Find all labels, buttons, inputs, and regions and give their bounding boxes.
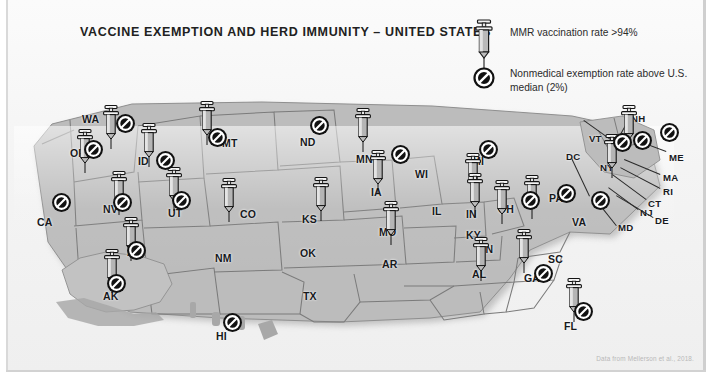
syringe-icon-in [464,172,486,222]
no-entry-icon-vt [612,132,633,157]
no-entry-icon-id [155,150,176,175]
no-entry-icon-mi [478,139,499,164]
no-entry-icon-hi [222,312,243,337]
no-entry-icon-ca [51,192,72,217]
state-label-co: CO [240,208,256,220]
state-label-wi: WI [415,168,428,180]
no-entry-icon-nd [309,115,330,140]
state-label-de: DE [655,215,669,226]
no-entry-icon-pa [556,183,577,208]
no-entry-icon-or [83,139,104,164]
legend-item-vaccination: MMR vaccination rate >94% [470,18,638,70]
state-label-tx: TX [303,290,317,302]
no-entry-icon-az [126,240,147,265]
state-label-ma: MA [663,172,678,183]
no-entry-icon-ga [533,263,554,288]
state-label-ar: AR [382,258,398,270]
infographic-root: VACCINE EXEMPTION AND HERD IMMUNITY – UN… [0,0,706,378]
no-entry-icon-fl [573,301,594,326]
no-entry-icon-me [659,122,680,147]
syringe-icon-ga [513,228,535,278]
state-label-vt: VT [589,133,602,144]
no-entry-icon-mt [207,127,228,152]
syringe-icon-co [218,177,240,227]
no-entry-icon-nh [632,130,653,155]
no-entry-icon-nv [112,192,133,217]
state-label-ok: OK [300,247,316,259]
no-entry-icon-ak [106,273,127,298]
state-label-wa: WA [82,113,99,125]
syringe-icon-oh [491,179,513,229]
syringe-icon-mo [380,200,402,250]
state-label-ca: CA [37,216,53,228]
state-label-me: ME [669,152,684,163]
state-label-il: IL [432,205,442,217]
no-entry-icon-ut [171,190,192,215]
syringe-icon [470,18,498,70]
panel-bottom-edge [6,370,706,372]
figure-title: VACCINE EXEMPTION AND HERD IMMUNITY – UN… [80,25,491,39]
state-label-md: MD [618,222,633,233]
no-entry-icon-wi [390,144,411,169]
state-label-nm: NM [215,252,232,264]
no-entry-icon-wa [115,113,136,138]
no-entry-icon-oh [520,190,541,215]
state-label-va: VA [572,216,586,228]
data-source-credit: Data from Mellerson et al., 2018. [596,355,694,362]
syringe-icon-ia [367,149,389,199]
no-entry-icon-ny [590,190,611,215]
syringe-icon-al [470,236,492,286]
syringe-icon-ks [310,176,332,226]
panel-left-edge [6,0,8,372]
legend-label-vaccination: MMR vaccination rate >94% [510,26,638,40]
state-label-ri: RI [663,186,673,197]
